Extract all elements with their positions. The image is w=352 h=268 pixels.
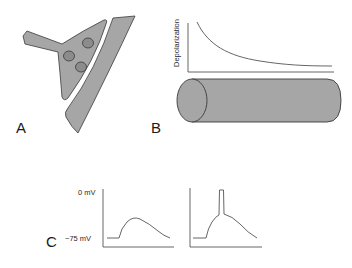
vesicle-icon <box>76 62 87 72</box>
panel-c-potentials: C 0 mV −75 mV <box>46 188 262 250</box>
y-axis-label: Depolarization <box>172 19 181 67</box>
tick-label-minus75mv: −75 mV <box>65 234 91 243</box>
panel-label-a: A <box>16 119 26 136</box>
epsp-trace <box>107 218 170 238</box>
figure-canvas: A Depolarization B C 0 mV −75 mV <box>0 0 352 268</box>
panel-b-cable: Depolarization B <box>151 19 341 136</box>
trace-graph-subthreshold <box>103 189 174 247</box>
cylinder-end-cap <box>177 79 207 122</box>
cylinder-body <box>192 79 341 122</box>
tick-label-0mv: 0 mV <box>78 188 96 197</box>
panel-label-b: B <box>151 119 161 136</box>
vesicle-icon <box>83 38 94 48</box>
vesicle-icon <box>64 51 75 61</box>
panel-label-c: C <box>46 233 57 250</box>
trace-graph-with-spike <box>190 188 262 247</box>
decay-curve <box>197 22 332 66</box>
action-potential-trace <box>193 190 257 238</box>
panel-a-synapse: A <box>16 16 135 136</box>
